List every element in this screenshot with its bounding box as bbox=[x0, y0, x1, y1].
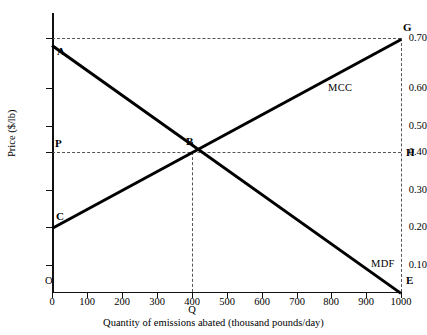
y-tick-label-050: 0.50 bbox=[389, 121, 427, 132]
emissions-abatement-chart: 0.70 0.60 0.50 0.40 0.30 0.20 0.10 0 100… bbox=[0, 0, 427, 335]
guide-line-quantity-400 bbox=[192, 152, 193, 292]
point-label-a: A bbox=[57, 46, 65, 57]
guide-line-quantity-1000 bbox=[401, 38, 402, 292]
y-tick-label-030: 0.30 bbox=[389, 185, 427, 196]
x-tick-label-500: 500 bbox=[207, 297, 247, 308]
curve-label-mdf: MDF bbox=[371, 259, 395, 270]
point-label-c: C bbox=[56, 211, 64, 222]
x-tick-label-600: 600 bbox=[242, 297, 282, 308]
quantity-marker-label: Q bbox=[177, 305, 207, 316]
y-tick-060 bbox=[46, 88, 53, 89]
y-tick-040 bbox=[46, 152, 53, 153]
y-tick-050 bbox=[46, 126, 53, 127]
x-tick-label-200: 200 bbox=[102, 297, 142, 308]
x-tick-label-0: 0 bbox=[32, 297, 72, 308]
point-label-b: B bbox=[186, 136, 193, 147]
y-tick-070 bbox=[46, 38, 53, 39]
y-tick-010 bbox=[46, 265, 53, 266]
curve-label-mcc: MCC bbox=[328, 83, 352, 94]
origin-label: O bbox=[45, 276, 53, 287]
x-tick-label-800: 800 bbox=[311, 297, 351, 308]
x-tick-label-300: 300 bbox=[137, 297, 177, 308]
x-tick-label-100: 100 bbox=[67, 297, 107, 308]
y-axis-title: Price ($/lb) bbox=[7, 88, 18, 178]
y-tick-030 bbox=[46, 190, 53, 191]
point-label-g: G bbox=[403, 22, 412, 33]
x-tick-label-1000: 1000 bbox=[381, 297, 421, 308]
point-label-h: H bbox=[406, 147, 415, 158]
guide-line-price-070 bbox=[52, 38, 401, 39]
y-tick-label-060: 0.60 bbox=[389, 83, 427, 94]
point-label-e: E bbox=[406, 275, 413, 286]
y-tick-label-010: 0.10 bbox=[389, 260, 427, 271]
point-label-p: P bbox=[55, 138, 62, 149]
guide-line-price-040 bbox=[52, 152, 401, 153]
x-tick-label-900: 900 bbox=[346, 297, 386, 308]
y-tick-label-020: 0.20 bbox=[389, 222, 427, 233]
x-axis-title: Quantity of emissions abated (thousand p… bbox=[0, 318, 427, 329]
curve-mcc bbox=[51, 38, 401, 230]
